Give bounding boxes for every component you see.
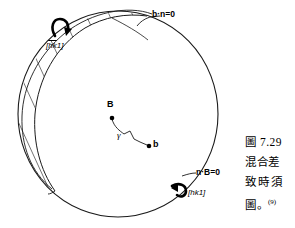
- label-point-B: B: [107, 100, 114, 109]
- label-plane-condition-bn0: b·n=0: [152, 10, 175, 19]
- caption-line-4: 圖。(9): [245, 192, 295, 212]
- label-direction-hkl-top: [hk1]: [46, 42, 63, 50]
- figure-caption: 圖 7.29 混合差 致時須 圖。(9): [245, 132, 295, 212]
- caption-line-3: 致時須: [245, 172, 295, 192]
- figure-container: b·n=0 n·B=0 [hk1] [hk1] B b γ 圖 7.29 混合差…: [0, 0, 295, 228]
- label-direction-hkl-top-overbar: hk: [48, 41, 56, 50]
- caption-line-4-text: 圖。: [245, 199, 268, 211]
- label-point-b: b: [153, 140, 159, 149]
- label-direction-hkl-bottom: [hk1]: [188, 189, 205, 197]
- caption-line-1: 圖 7.29: [245, 132, 295, 152]
- label-plane-condition-nb0: n·B=0: [196, 168, 220, 177]
- label-angle-gamma: γ: [117, 131, 121, 140]
- caption-line-2: 混合差: [245, 152, 295, 172]
- diagram-sphere-illustration: b·n=0 n·B=0 [hk1] [hk1] B b γ: [0, 0, 240, 228]
- point-marker-B: [110, 116, 115, 121]
- caption-reference-marker: (9): [268, 198, 276, 206]
- point-marker-b: [147, 144, 152, 149]
